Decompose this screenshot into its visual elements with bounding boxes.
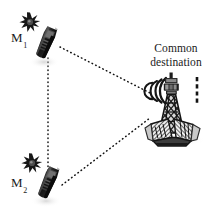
node-m1-label-main: M xyxy=(11,30,23,45)
diagram-canvas xyxy=(0,0,217,214)
antenna-head xyxy=(164,73,179,95)
destination-label-line2: destination xyxy=(136,56,216,70)
node-destination[interactable] xyxy=(144,73,205,148)
network-topology-diagram: M1 M2 Common destination xyxy=(0,0,217,214)
node-m2-label-main: M xyxy=(11,175,23,190)
destination-label-line1: Common xyxy=(136,42,216,56)
mobile-handset-icon xyxy=(36,163,61,199)
node-m2[interactable] xyxy=(21,153,61,207)
node-m1-label: M1 xyxy=(11,31,27,44)
signal-waves-icon xyxy=(144,78,166,104)
node-m2-label-sub: 2 xyxy=(23,186,27,195)
link-m2-to-destination xyxy=(62,118,150,185)
node-m2-label: M2 xyxy=(11,176,27,189)
link-group xyxy=(48,47,150,185)
signal-burst-icon xyxy=(21,153,42,173)
signal-burst-icon xyxy=(19,12,40,32)
node-m1-label-sub: 1 xyxy=(23,41,27,50)
mobile-handset-icon xyxy=(34,23,59,59)
destination-label: Common destination xyxy=(136,42,216,69)
